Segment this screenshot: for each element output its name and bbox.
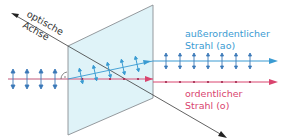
polarization-dot-icon [179,81,181,83]
polarization-dot-icon [193,81,195,83]
polarization-dot-icon [221,81,223,83]
extraordinary-arrow-head-icon [269,58,278,64]
ordinary-ray-label-line1: ordentlicher [185,88,243,99]
optic-axis-arrow-head-icon [218,131,227,138]
extraordinary-ray-label-line2: Strahl (ao) [185,40,235,51]
polarization-dot-icon [235,81,237,83]
polarization-dot-icon [249,81,251,83]
ordinary-arrow-head-icon [269,79,278,85]
ordinary-ray-label-line2: Strahl (o) [185,100,229,111]
diagram-canvas: optische Achse außerordentlicher Strahl … [0,0,286,140]
right-angle-marker-icon [61,72,67,79]
polarization-dot-icon [207,81,209,83]
birefringence-diagram: optische Achse außerordentlicher Strahl … [0,0,286,140]
extraordinary-ray-label-line1: außerordentlicher [185,28,270,39]
polarization-dot-icon [165,81,167,83]
